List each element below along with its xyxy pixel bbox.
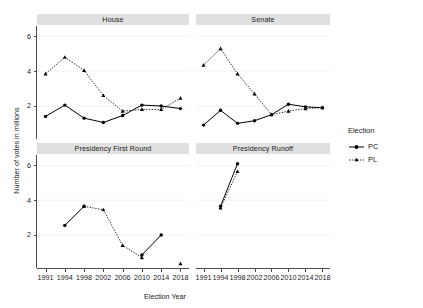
data-point-pl [236, 169, 240, 173]
facet-plot-area [37, 155, 189, 268]
data-point-pc [63, 224, 66, 227]
data-point-pl [140, 107, 144, 111]
data-point-pc [287, 103, 290, 106]
y-axis-tick-label: 2 [11, 101, 31, 110]
data-point-pc [236, 162, 239, 165]
data-point-pc [44, 115, 47, 118]
y-axis-tick [34, 200, 37, 201]
data-point-pc [219, 109, 222, 112]
x-axis-tick [142, 269, 143, 272]
legend-item-pl[interactable]: PL [348, 153, 378, 166]
x-axis-tick [255, 269, 256, 272]
y-axis-tick [34, 71, 37, 72]
legend-key-pl-icon [348, 154, 365, 166]
y-axis-line [36, 26, 37, 139]
legend-title: Election [348, 126, 378, 135]
data-point-pl [63, 55, 67, 59]
x-axis-tick [103, 269, 104, 272]
x-axis-tick [305, 269, 306, 272]
x-axis-line [37, 268, 189, 269]
x-axis-tick [123, 269, 124, 272]
data-point-pc [159, 104, 162, 107]
data-point-pl [82, 68, 86, 72]
x-axis-tick [84, 269, 85, 272]
y-axis-line [36, 155, 37, 268]
y-axis-tick [34, 106, 37, 107]
facet-strip-house: House [37, 14, 189, 25]
data-point-pl [178, 96, 182, 100]
y-axis-tick-label: 6 [11, 161, 31, 170]
x-axis-tick [322, 269, 323, 272]
data-point-pl [44, 72, 48, 76]
data-point-pl [140, 255, 144, 259]
x-axis-title: Election Year [0, 292, 330, 301]
x-axis-tick-label: 2018 [309, 273, 335, 282]
facet-panel-house [37, 26, 189, 139]
y-axis-tick [34, 235, 37, 236]
data-point-pc [159, 233, 162, 236]
legend-entries: PCPL [348, 140, 378, 166]
series-line-pc [65, 206, 84, 225]
legend: Election PCPL [348, 126, 378, 166]
facet-panel-senate [196, 26, 330, 139]
facet-strip-senate: Senate [196, 14, 330, 25]
series-line-pl [84, 206, 142, 257]
data-point-pc [140, 103, 143, 106]
data-point-pc [202, 123, 205, 126]
legend-label: PL [368, 155, 377, 164]
y-axis-tick-label: 4 [11, 196, 31, 205]
facet-strip-presidency-first-round: Presidency First Round [37, 143, 189, 154]
series-line-pc [46, 105, 181, 122]
data-point-pc [82, 116, 85, 119]
facet-plot-area [196, 155, 330, 268]
x-axis-tick [46, 269, 47, 272]
data-point-pl [219, 47, 223, 51]
chart-figure: Number of votes in millions Election Yea… [0, 0, 423, 308]
data-point-pc [121, 114, 124, 117]
x-axis-tick [180, 269, 181, 272]
data-point-pc [63, 103, 66, 106]
facet-strip-label: Presidency Runoff [233, 144, 293, 153]
data-point-pl [159, 107, 163, 111]
data-point-pl [202, 63, 206, 67]
y-axis-tick [34, 165, 37, 166]
facet-plot-area [196, 26, 330, 139]
y-axis-tick-label: 6 [11, 32, 31, 41]
x-axis-tick [161, 269, 162, 272]
x-axis-tick [65, 269, 66, 272]
x-axis-tick [238, 269, 239, 272]
data-point-pc [179, 107, 182, 110]
y-axis-tick-label: 4 [11, 67, 31, 76]
legend-label: PC [368, 142, 378, 151]
y-axis-tick [34, 36, 37, 37]
y-axis-tick-label: 2 [11, 230, 31, 239]
data-point-pl [101, 93, 105, 97]
legend-item-pc[interactable]: PC [348, 140, 378, 153]
facet-strip-presidency-runoff: Presidency Runoff [196, 143, 330, 154]
series-line-pl [204, 49, 323, 115]
facet-strip-label: Senate [251, 15, 274, 24]
facet-plot-area [37, 26, 189, 139]
data-point-pl [121, 243, 125, 247]
x-axis-tick [271, 269, 272, 272]
data-point-pc [253, 119, 256, 122]
x-axis-tick [221, 269, 222, 272]
x-axis-tick [288, 269, 289, 272]
y-axis-title: Number of votes in millions [12, 61, 21, 241]
data-point-pl [236, 72, 240, 76]
legend-key-pc-icon [348, 141, 365, 153]
data-point-pl [178, 262, 182, 266]
series-line-pl [221, 172, 238, 209]
facet-panel-presidency-first-round [37, 155, 189, 268]
series-line-pc [142, 235, 161, 255]
facet-strip-label: Presidency First Round [75, 144, 152, 153]
x-axis-tick [204, 269, 205, 272]
data-point-pc [236, 122, 239, 125]
facet-strip-label: House [102, 15, 123, 24]
facet-panel-presidency-runoff [196, 155, 330, 268]
x-axis-line [196, 268, 330, 269]
data-point-pl [253, 92, 257, 96]
series-line-pl [46, 57, 181, 111]
data-point-pc [102, 121, 105, 124]
